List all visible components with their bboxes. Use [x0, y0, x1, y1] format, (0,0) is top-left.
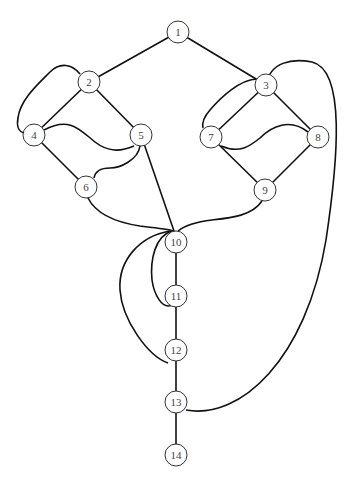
svg-text:5: 5	[138, 129, 144, 141]
edge-10-12-curved	[120, 231, 170, 363]
node-6[interactable]: 6	[75, 176, 97, 198]
node-10[interactable]: 10	[165, 231, 187, 253]
edge-5-10	[141, 135, 174, 231]
edge-6-10-curved	[88, 198, 174, 231]
svg-text:10: 10	[171, 236, 183, 248]
svg-text:13: 13	[171, 396, 183, 408]
node-13[interactable]: 13	[165, 391, 187, 413]
edge-3-13-curved	[186, 61, 336, 411]
node-9[interactable]: 9	[254, 179, 276, 201]
svg-text:7: 7	[208, 131, 214, 143]
svg-text:6: 6	[83, 181, 89, 193]
node-14[interactable]: 14	[165, 444, 187, 466]
node-4[interactable]: 4	[23, 124, 45, 146]
svg-text:8: 8	[315, 131, 321, 143]
node-7[interactable]: 7	[200, 126, 222, 148]
svg-text:9: 9	[262, 184, 268, 196]
edge-1-3	[178, 32, 266, 85]
edge-9-10-curved	[178, 201, 262, 231]
node-2[interactable]: 2	[78, 71, 100, 93]
svg-text:11: 11	[171, 290, 182, 302]
node-12[interactable]: 12	[165, 339, 187, 361]
edge-4-5-curved	[44, 124, 134, 150]
svg-text:4: 4	[31, 129, 37, 141]
node-11[interactable]: 11	[165, 285, 187, 307]
node-5[interactable]: 5	[130, 124, 152, 146]
svg-text:3: 3	[263, 79, 269, 91]
node-3[interactable]: 3	[255, 74, 277, 96]
node-1[interactable]: 1	[167, 21, 189, 43]
svg-text:1: 1	[175, 26, 181, 38]
svg-text:12: 12	[171, 344, 182, 356]
graph-diagram: 1 2 3 4 5 6 7 8 9 10 11 12 13 14	[0, 0, 358, 479]
nodes: 1 2 3 4 5 6 7 8 9 10 11 12 13 14	[23, 21, 329, 466]
svg-text:14: 14	[171, 449, 183, 461]
svg-text:2: 2	[86, 76, 92, 88]
edge-7-8-curved	[221, 125, 308, 150]
node-8[interactable]: 8	[307, 126, 329, 148]
edge-1-2	[89, 32, 178, 82]
